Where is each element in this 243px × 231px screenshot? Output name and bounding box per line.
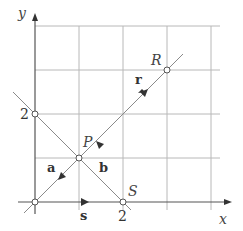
point-S	[120, 199, 126, 205]
vector-a-arrowhead	[58, 172, 66, 180]
point-R	[164, 67, 170, 73]
point-S-label: S	[128, 183, 138, 199]
x-tick-2: 2	[118, 208, 127, 224]
point-P-label: P	[82, 134, 93, 150]
point-y2	[32, 111, 38, 117]
y-axis-label: y	[17, 5, 27, 21]
point-R-label: R	[150, 52, 162, 68]
vector-a-label: a	[47, 160, 56, 175]
vector-b-arrowhead	[96, 141, 104, 149]
line-through-Y2-S	[13, 92, 131, 210]
point-origin	[32, 199, 38, 205]
point-P	[76, 155, 82, 161]
vector-s-label: s	[80, 208, 87, 223]
x-axis-label: x	[219, 211, 227, 227]
vector-r-label: r	[135, 72, 142, 87]
y-tick-2: 2	[20, 106, 29, 122]
vector-b-label: b	[99, 160, 108, 175]
vector-diagram: y x 2 2 P R S a b r s	[0, 0, 243, 231]
vector-s-arrowhead	[81, 198, 89, 206]
line-through-P-R	[24, 54, 183, 213]
